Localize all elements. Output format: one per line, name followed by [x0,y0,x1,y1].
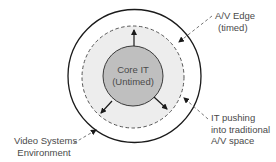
it-pushing-label: IT pushing into traditional A/V space [211,112,270,147]
video-env-line2: Environment [14,147,74,159]
av-edge-subtitle: (timed) [215,22,255,34]
it-pushing-line1: IT pushing [211,112,270,124]
av-edge-leader [179,16,212,42]
core-it-label: Core IT (Untimed) [103,64,163,87]
av-edge-title: A/V Edge [215,10,255,22]
av-edge-label: A/V Edge (timed) [215,10,255,33]
video-env-leader [74,130,96,143]
it-pushing-line2: into traditional [211,124,270,136]
it-pushing-line3: A/V space [211,135,270,147]
video-env-line1: Video Systems [14,135,74,147]
core-it-title: Core IT [103,64,163,76]
core-it-subtitle: (Untimed) [103,76,163,88]
video-env-label: Video Systems Environment [14,135,74,158]
